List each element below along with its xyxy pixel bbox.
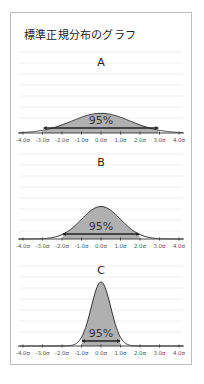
x-tick-label: 3.0σ [153, 137, 166, 143]
x-tick-label: 4.0σ [173, 137, 186, 143]
x-tick-label: -4.0σ [16, 137, 31, 143]
chart-panel-b: B95%-4.0σ-3.0σ-2.0σ-1.0σ0.0σ1.0σ2.0σ3.0σ… [16, 154, 186, 249]
x-tick-label: 3.0σ [153, 350, 166, 356]
percentage-label: 95% [89, 220, 113, 233]
x-tick-label: -3.0σ [35, 243, 50, 249]
x-tick-label: -2.0σ [55, 350, 70, 356]
x-tick-label: 2.0σ [134, 137, 147, 143]
x-tick-label: 1.0σ [114, 137, 127, 143]
x-tick-label: -3.0σ [35, 137, 50, 143]
x-tick-label: 0.0σ [95, 350, 108, 356]
x-tick-label: 2.0σ [134, 350, 147, 356]
x-tick-label: -1.0σ [74, 137, 89, 143]
x-tick-label: 0.0σ [95, 137, 108, 143]
x-tick-label: -4.0σ [16, 243, 31, 249]
x-tick-label: 4.0σ [173, 243, 186, 249]
x-tick-label: -1.0σ [74, 350, 89, 356]
x-tick-label: -1.0σ [74, 243, 89, 249]
percentage-label: 95% [89, 114, 113, 127]
x-tick-label: 4.0σ [173, 350, 186, 356]
panel-title: A [97, 56, 105, 69]
x-tick-label: 3.0σ [153, 243, 166, 249]
percentage-label: 95% [89, 327, 113, 340]
x-tick-label: 0.0σ [95, 243, 108, 249]
x-tick-label: 1.0σ [114, 243, 127, 249]
x-tick-label: -2.0σ [55, 137, 70, 143]
x-tick-label: -2.0σ [55, 243, 70, 249]
panel-title: B [97, 156, 105, 169]
chart-panel-c: C95%-4.0σ-3.0σ-2.0σ-1.0σ0.0σ1.0σ2.0σ3.0σ… [16, 264, 186, 356]
x-tick-label: -3.0σ [35, 350, 50, 356]
panel-title: C [97, 264, 105, 277]
x-tick-label: 2.0σ [134, 243, 147, 249]
x-tick-label: 1.0σ [114, 350, 127, 356]
normal-distribution-charts: A95%-4.0σ-3.0σ-2.0σ-1.0σ0.0σ1.0σ2.0σ3.0σ… [0, 0, 204, 384]
chart-panel-a: A95%-4.0σ-3.0σ-2.0σ-1.0σ0.0σ1.0σ2.0σ3.0σ… [16, 52, 186, 143]
x-tick-label: -4.0σ [16, 350, 31, 356]
